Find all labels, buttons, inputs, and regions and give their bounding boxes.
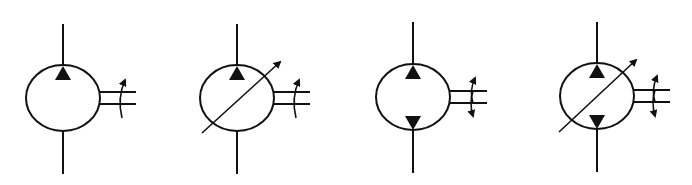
flow-direction-triangle-up-icon bbox=[589, 64, 605, 78]
symbol-fixed-pump-unidirectional bbox=[26, 24, 136, 174]
symbol-fixed-pump-bidirectional bbox=[376, 22, 487, 173]
flow-direction-triangle-icon bbox=[55, 66, 71, 80]
rotation-arrow-icon bbox=[120, 80, 125, 118]
flow-direction-triangle-icon bbox=[229, 66, 245, 80]
rotation-arrow-icon bbox=[294, 80, 299, 118]
symbol-variable-pump-bidirectional bbox=[559, 22, 670, 172]
flow-direction-triangle-down-icon bbox=[405, 116, 421, 130]
hydraulic-pump-symbols-diagram bbox=[0, 0, 692, 185]
flow-direction-triangle-down-icon bbox=[589, 115, 605, 129]
flow-direction-triangle-up-icon bbox=[405, 65, 421, 79]
symbol-variable-pump-unidirectional bbox=[200, 24, 310, 174]
